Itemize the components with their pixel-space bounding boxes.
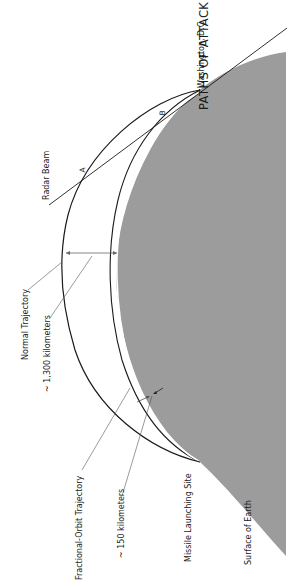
- radar-beam-label: Radar Beam: [42, 151, 51, 200]
- launch-site-label: Missile Launching Site: [184, 473, 193, 562]
- normal-altitude-label: ~ 1,300 kilometers: [43, 315, 52, 392]
- leader-fractional-altitude: [122, 396, 152, 496]
- leader-fractional-orbit: [82, 388, 130, 470]
- point-b-label: B: [158, 110, 167, 115]
- fractional-orbit-label: Fractional-Orbit Trajectory: [75, 476, 84, 581]
- point-a-label: A: [78, 167, 87, 173]
- earth-surface-label: Surface of Earth: [244, 500, 253, 565]
- earth-surface-shape: [116, 52, 286, 556]
- paths-of-attack-diagram: A B PATHS OF ATTACK Washington, D.C. Rad…: [0, 0, 298, 583]
- washington-label: Washington, D.C.: [197, 19, 206, 88]
- normal-trajectory-label: Normal Trajectory: [21, 289, 30, 360]
- fractional-altitude-label: ~ 150 kilometers: [117, 489, 126, 558]
- leader-normal-trajectory: [28, 262, 62, 290]
- leader-normal-altitude: [50, 256, 92, 318]
